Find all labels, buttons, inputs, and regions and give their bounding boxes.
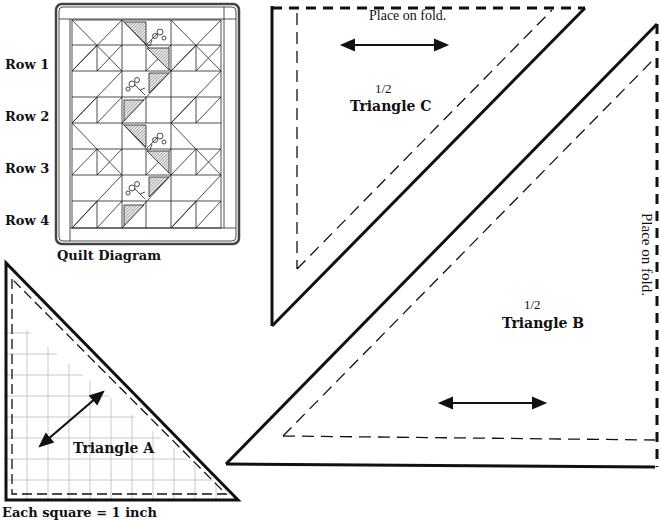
- quilt-diagram: [56, 4, 239, 244]
- triangle-c-label: Triangle C: [350, 98, 431, 114]
- scale-note: Each square = 1 inch: [2, 505, 157, 520]
- triangle-c-fold-note: Place on fold.: [369, 8, 446, 24]
- triangle-c: [272, 6, 585, 326]
- triangle-b-label: Triangle B: [502, 315, 584, 331]
- row-label-2: Row 2: [5, 109, 49, 124]
- triangle-c-fraction: 1/2: [375, 81, 392, 97]
- triangle-b: [226, 24, 657, 467]
- triangle-b-fraction: 1/2: [524, 297, 541, 313]
- triangle-a-label: Triangle A: [73, 440, 154, 456]
- triangle-b-fold-note: Place on fold.: [638, 213, 655, 296]
- quilt-diagram-caption: Quilt Diagram: [57, 248, 161, 263]
- row-label-4: Row 4: [5, 213, 49, 228]
- row-label-3: Row 3: [5, 161, 49, 176]
- triangle-a: [0, 263, 240, 505]
- row-label-1: Row 1: [5, 57, 49, 72]
